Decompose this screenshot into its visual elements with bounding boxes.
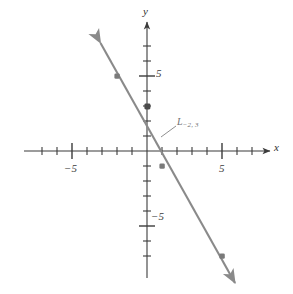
x-tick-label-pos5: 5 xyxy=(219,163,225,174)
line-segment xyxy=(101,43,236,283)
y-axis-label: y xyxy=(143,6,148,17)
y-tick-label-neg5: −5 xyxy=(151,211,164,222)
graphed-line xyxy=(101,43,236,283)
x-tick-label-neg5: −5 xyxy=(64,163,77,174)
y-tick-label-pos5: 5 xyxy=(156,68,162,79)
coordinate-plane-figure: x y −5 5 5 −5 L−2, 3 xyxy=(0,0,293,294)
point-0-3 xyxy=(144,103,150,109)
x-axis-label: x xyxy=(274,142,279,153)
graph-canvas xyxy=(0,0,293,294)
point-neg2-5 xyxy=(114,73,119,78)
label-leader-line xyxy=(161,126,176,137)
line-label-subscript: −2, 3 xyxy=(183,121,199,129)
point-5-neg7 xyxy=(219,253,224,258)
point-1-neg1 xyxy=(159,163,164,168)
line-name-label: L−2, 3 xyxy=(177,117,199,129)
